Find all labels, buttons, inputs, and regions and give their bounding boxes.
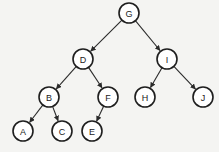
tree-diagram: GDIBFHJACE bbox=[0, 0, 219, 152]
node-C: C bbox=[52, 121, 72, 141]
node-H: H bbox=[135, 87, 155, 107]
node-label: I bbox=[166, 55, 169, 65]
edge-D-B bbox=[56, 66, 76, 88]
tree-canvas: GDIBFHJACE bbox=[0, 0, 219, 152]
edge-I-H bbox=[151, 68, 162, 88]
edge-layer bbox=[30, 20, 196, 122]
node-label: E bbox=[89, 127, 95, 137]
node-layer: GDIBFHJACE bbox=[13, 3, 213, 141]
node-J: J bbox=[193, 87, 213, 107]
node-label: F bbox=[105, 93, 111, 103]
node-label: D bbox=[80, 55, 87, 65]
edge-B-A bbox=[30, 105, 43, 122]
node-A: A bbox=[13, 121, 33, 141]
node-label: H bbox=[142, 93, 149, 103]
node-D: D bbox=[73, 49, 93, 69]
node-I: I bbox=[157, 49, 177, 69]
node-label: A bbox=[20, 127, 26, 137]
node-label: B bbox=[46, 93, 52, 103]
edge-D-F bbox=[88, 67, 101, 87]
node-F: F bbox=[98, 87, 118, 107]
node-label: G bbox=[125, 9, 132, 19]
node-label: J bbox=[201, 93, 206, 103]
node-E: E bbox=[82, 121, 102, 141]
edge-G-D bbox=[91, 20, 122, 51]
edge-F-E bbox=[97, 106, 104, 121]
edge-B-C bbox=[53, 106, 59, 120]
node-label: C bbox=[59, 127, 66, 137]
node-G: G bbox=[119, 3, 139, 23]
edge-I-J bbox=[174, 66, 196, 89]
edge-G-I bbox=[135, 21, 160, 51]
node-B: B bbox=[39, 87, 59, 107]
